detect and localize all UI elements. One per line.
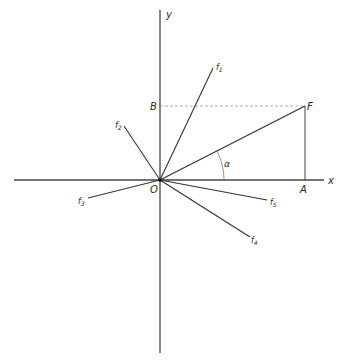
svg-text:f1: f1 [216,63,223,73]
point-f-label: F [307,101,313,112]
force-vector-f1 [160,68,213,180]
force-vector-f2 [124,126,160,180]
svg-text:f4: f4 [251,236,258,246]
force-label-f2: f2 [115,121,122,131]
x-axis-label: x [327,175,334,186]
svg-text:f2: f2 [115,121,122,131]
angle-arc-alpha [217,151,224,180]
resultant-vector-f [160,106,305,180]
force-label-f1: f1 [216,63,223,73]
origin-label: O [150,184,158,195]
point-a-label: A [299,184,307,195]
diagram-canvas: y x O A B F α f1 f2 f3 f4 f5 [0,0,342,360]
force-label-f4: f4 [251,236,258,246]
force-label-f3: f3 [78,197,85,207]
origin-point [158,178,162,182]
angle-alpha-label: α [224,159,230,169]
force-label-f5: f5 [270,198,277,208]
svg-text:f3: f3 [78,197,85,207]
svg-text:f5: f5 [270,198,277,208]
y-axis-label: y [165,9,173,20]
point-b-label: B [150,101,157,112]
